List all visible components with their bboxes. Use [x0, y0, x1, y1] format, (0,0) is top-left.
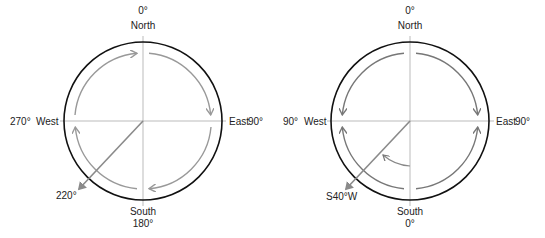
east-degree-label: 90° — [248, 116, 263, 127]
angle-arc — [383, 155, 410, 166]
south-degree-label: 180° — [133, 218, 154, 229]
west-label: West — [304, 116, 327, 127]
east-degree-label: 90° — [515, 116, 530, 127]
west-degree-label: 270° — [10, 116, 31, 127]
arrow-ne-quadrant — [149, 53, 211, 115]
south-label: South — [397, 206, 423, 217]
west-degree-label: 90° — [283, 116, 298, 127]
arrow-nw-quadrant — [75, 53, 137, 115]
arrow-north-to-west — [342, 53, 404, 115]
bearing-label: 220° — [56, 190, 77, 201]
south-label: South — [130, 206, 156, 217]
quadrant-compass: 0° North East 90° 90° West South 0° S40°… — [283, 5, 530, 229]
east-label: East — [229, 116, 249, 127]
west-label: West — [36, 116, 59, 127]
bearing-label: S40°W — [326, 191, 358, 202]
south-degree-label: 0° — [405, 218, 415, 229]
north-degree-label: 0° — [405, 5, 415, 16]
arrow-north-to-east — [416, 53, 478, 115]
arrow-south-to-east — [416, 127, 478, 189]
north-label: North — [398, 20, 422, 31]
azimuth-compass: 0° North East 90° 270° West South 180° 2… — [10, 5, 263, 229]
bearing-line — [79, 121, 143, 189]
east-label: East — [496, 116, 516, 127]
north-label: North — [131, 20, 155, 31]
bearing-line — [346, 121, 410, 189]
compass-diagrams: 0° North East 90° 270° West South 180° 2… — [0, 0, 545, 238]
arrow-se-quadrant — [149, 127, 211, 189]
north-degree-label: 0° — [138, 5, 148, 16]
